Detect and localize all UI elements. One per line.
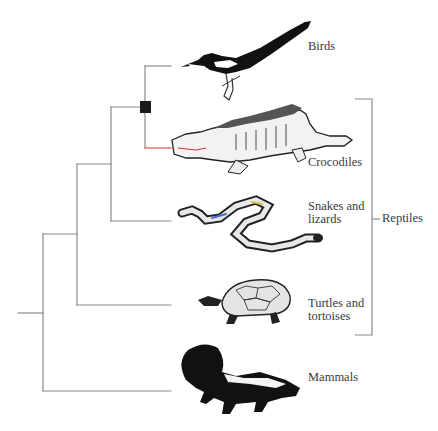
turtle-illustration [198, 280, 290, 324]
label-turtles: Turtles and tortoises [308, 297, 364, 323]
phylogenetic-tree [0, 0, 438, 431]
label-crocodiles: Crocodiles [308, 156, 362, 169]
bird-illustration [181, 21, 311, 100]
label-mammals-text: Mammals [308, 370, 358, 384]
skunk-illustration [181, 344, 300, 414]
label-snakes-lizards: Snakes and lizards [308, 200, 365, 226]
archosaur-node-marker [140, 101, 151, 113]
label-birds: Birds [308, 40, 335, 53]
label-crocodiles-text: Crocodiles [308, 155, 362, 169]
label-mammals: Mammals [308, 371, 358, 384]
label-snakes-lizards-line2: lizards [308, 213, 365, 226]
label-reptiles-text: Reptiles [382, 211, 423, 225]
label-reptiles: Reptiles [382, 212, 423, 225]
label-turtles-line2: tortoises [308, 310, 364, 323]
label-birds-text: Birds [308, 39, 335, 53]
snake-illustration [182, 200, 323, 248]
